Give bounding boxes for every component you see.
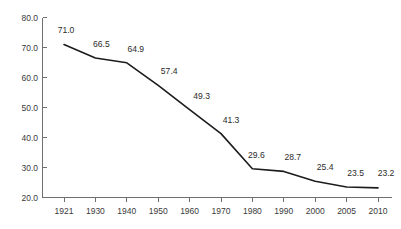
x-tick-label: 2010 xyxy=(369,206,388,216)
x-tick-label: 1930 xyxy=(86,206,105,216)
y-tick-label: 20.0 xyxy=(21,193,38,203)
line-chart: 20.030.040.050.060.070.080.0 19211930194… xyxy=(0,0,401,229)
y-tick-label: 40.0 xyxy=(21,133,38,143)
data-point-label: 71.0 xyxy=(58,25,75,35)
x-tick-label: 1950 xyxy=(149,206,168,216)
x-tick-label: 1940 xyxy=(117,206,136,216)
y-tick-label: 80.0 xyxy=(21,13,38,23)
data-point-label: 28.7 xyxy=(284,152,301,162)
data-point-label: 64.9 xyxy=(127,44,144,54)
data-point-label: 25.4 xyxy=(317,162,334,172)
data-point-label: 23.2 xyxy=(378,168,395,178)
data-point-label: 49.3 xyxy=(193,91,210,101)
y-tick-label: 70.0 xyxy=(21,43,38,53)
y-tick-label: 50.0 xyxy=(21,103,38,113)
x-tick-label: 1960 xyxy=(180,206,199,216)
x-tick-label: 1970 xyxy=(212,206,231,216)
x-tick-label: 2005 xyxy=(337,206,356,216)
data-point-label: 41.3 xyxy=(223,115,240,125)
chart-plot-area: 20.030.040.050.060.070.080.0 19211930194… xyxy=(0,0,401,229)
data-point-label: 66.5 xyxy=(93,39,110,49)
x-tick-label: 1990 xyxy=(274,206,293,216)
y-axis: 20.030.040.050.060.070.080.0 xyxy=(21,13,46,203)
data-point-labels: 71.066.564.957.449.341.329.628.725.423.5… xyxy=(58,25,395,179)
data-point-label: 57.4 xyxy=(161,66,178,76)
y-tick-label: 30.0 xyxy=(21,163,38,173)
data-point-label: 23.5 xyxy=(347,168,364,178)
x-axis: 1921193019401950196019701980199020002005… xyxy=(43,198,393,216)
y-tick-label: 60.0 xyxy=(21,73,38,83)
x-tick-label: 1921 xyxy=(55,206,74,216)
x-tick-label: 1980 xyxy=(243,206,262,216)
x-tick-label: 2000 xyxy=(306,206,325,216)
data-point-label: 29.6 xyxy=(248,150,265,160)
